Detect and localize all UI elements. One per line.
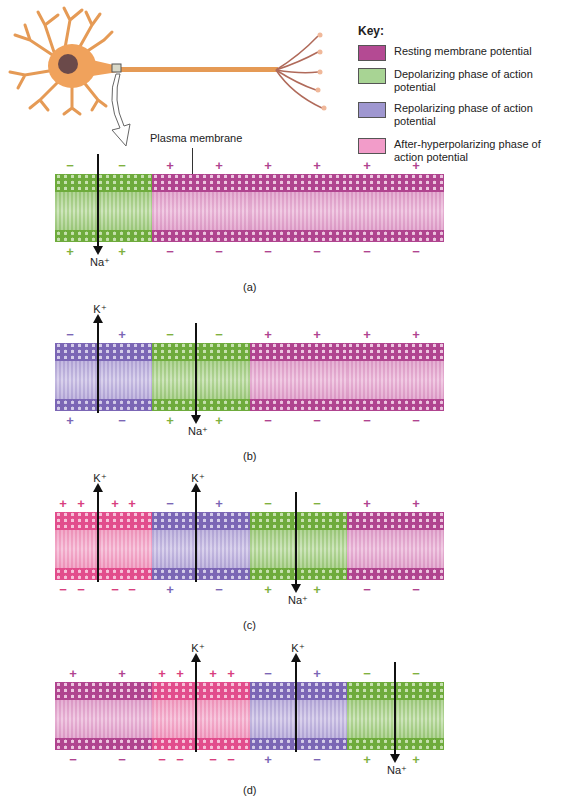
phospholipid-tails (347, 530, 444, 568)
key-item-repolarizing: Repolarizing phase of action potential (358, 102, 559, 128)
charge-outer: + (118, 668, 126, 680)
key-title: Key: (358, 24, 384, 38)
nucleus-icon (58, 54, 78, 74)
phospholipid-tails (250, 361, 347, 399)
phospholipid-heads-top (152, 682, 249, 700)
potassium-ion-label: K⁺ (291, 642, 304, 655)
phospholipid-heads-bottom (55, 230, 152, 242)
panel-label: (c) (243, 619, 256, 631)
charge-inner: − (412, 584, 420, 596)
phospholipid-tails (250, 700, 347, 738)
charge-inner: + (166, 584, 174, 596)
charge-inner: − (59, 584, 67, 596)
phospholipid-heads-top (55, 682, 152, 700)
membrane-segment-resting (250, 343, 347, 411)
charge-inner: − (128, 584, 136, 596)
k-efflux-arrow-icon (97, 490, 99, 582)
membrane-segment-resting (55, 682, 152, 750)
phospholipid-heads-bottom (250, 738, 347, 750)
phospholipid-heads-bottom (250, 399, 347, 411)
na-influx-arrow-icon (195, 323, 197, 417)
key-item-after-hyperpolarizing: After-hyperpolarizing phase of action po… (358, 138, 559, 164)
charge-outer: − (66, 160, 74, 172)
phospholipid-heads-bottom (347, 399, 444, 411)
phospholipid-heads-top (250, 343, 347, 361)
charge-outer: + (313, 668, 321, 680)
phospholipid-heads-bottom (55, 399, 152, 411)
potassium-ion-label: K⁺ (93, 472, 106, 485)
charge-inner: − (313, 754, 321, 766)
charge-outer: − (313, 498, 321, 510)
phospholipid-heads-bottom (152, 230, 249, 242)
charge-outer: − (264, 668, 272, 680)
charge-inner: + (264, 754, 272, 766)
charge-inner: − (264, 415, 272, 427)
k-efflux-arrow-icon (195, 490, 197, 582)
charge-inner: − (209, 754, 217, 766)
charge-inner: − (166, 246, 174, 258)
sodium-ion-label: Na⁺ (387, 764, 407, 777)
charge-inner: − (111, 584, 119, 596)
charge-inner: − (77, 584, 85, 596)
panel-label: (b) (243, 450, 256, 462)
charge-outer: + (412, 329, 420, 341)
membrane-segment-after-hyperpolarizing (152, 682, 249, 750)
phospholipid-heads-top (347, 512, 444, 530)
charge-inner: − (412, 415, 420, 427)
charge-inner: − (313, 415, 321, 427)
charge-inner: + (66, 415, 74, 427)
membrane-segment-resting (152, 174, 249, 242)
membrane-segment-resting (347, 512, 444, 580)
charge-inner: − (412, 246, 420, 258)
charge-inner: − (313, 246, 321, 258)
key-item-resting: Resting membrane potential (358, 45, 559, 61)
k-efflux-arrow-icon (295, 660, 297, 752)
membrane (55, 174, 444, 242)
k-efflux-arrow-icon (195, 660, 197, 752)
charge-inner: + (313, 584, 321, 596)
swatch-resting (358, 45, 386, 61)
charge-outer: + (176, 668, 184, 680)
membrane-segment-depolarizing (152, 343, 249, 411)
na-influx-arrow-icon (394, 662, 396, 756)
swatch-depolarizing (358, 68, 386, 84)
phospholipid-tails (55, 530, 152, 568)
charge-inner: − (215, 584, 223, 596)
charge-inner: − (176, 754, 184, 766)
charge-outer: + (111, 498, 119, 510)
membrane (55, 512, 444, 580)
charge-outer: + (363, 498, 371, 510)
charge-outer: + (215, 160, 223, 172)
phospholipid-heads-top (347, 174, 444, 192)
charge-inner: − (158, 754, 166, 766)
charge-inner: + (166, 415, 174, 427)
phospholipid-heads-top (250, 174, 347, 192)
phospholipid-tails (347, 361, 444, 399)
phospholipid-tails (347, 192, 444, 230)
na-influx-arrow-icon (97, 154, 99, 248)
charge-outer: + (363, 160, 371, 172)
phospholipid-heads-top (55, 512, 152, 530)
phospholipid-tails (55, 192, 152, 230)
charge-inner: + (215, 415, 223, 427)
sodium-ion-label: Na⁺ (90, 256, 110, 269)
charge-inner: + (264, 584, 272, 596)
panel-label: (d) (243, 784, 256, 796)
phospholipid-heads-bottom (152, 399, 249, 411)
plasma-membrane-leader-line (192, 148, 193, 174)
membrane-segment-after-hyperpolarizing (55, 512, 152, 580)
k-efflux-arrow-icon (97, 321, 99, 413)
swatch-after-hyperpolarizing (358, 138, 386, 154)
charge-outer: + (128, 498, 136, 510)
charge-outer: − (66, 329, 74, 341)
key-item-depolarizing: Depolarizing phase of action potential (358, 68, 559, 94)
phospholipid-heads-bottom (55, 738, 152, 750)
charge-inner: + (363, 754, 371, 766)
charge-outer: − (166, 498, 174, 510)
phospholipid-heads-top (152, 343, 249, 361)
charge-outer: + (59, 498, 67, 510)
phospholipid-tails (55, 361, 152, 399)
na-influx-arrow-icon (295, 492, 297, 586)
sodium-ion-label: Na⁺ (288, 594, 308, 607)
phospholipid-tails (152, 700, 249, 738)
